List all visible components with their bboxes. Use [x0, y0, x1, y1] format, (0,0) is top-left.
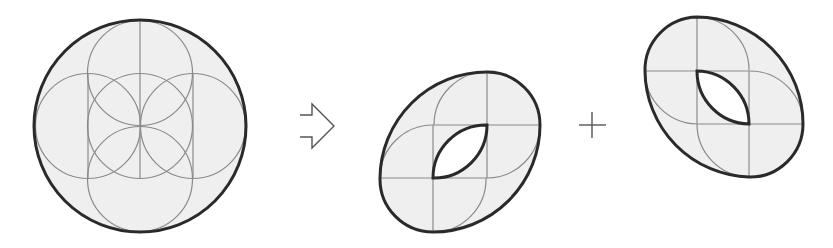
result-b-fill [645, 17, 803, 177]
arrow-right-outline-icon [300, 104, 334, 148]
plus-icon [579, 112, 606, 138]
decomposition-diagram [0, 0, 833, 248]
source-circle-figure [34, 20, 246, 232]
result-a-fill [380, 72, 540, 232]
result-shape-b [645, 17, 803, 177]
result-shape-a [380, 72, 540, 232]
